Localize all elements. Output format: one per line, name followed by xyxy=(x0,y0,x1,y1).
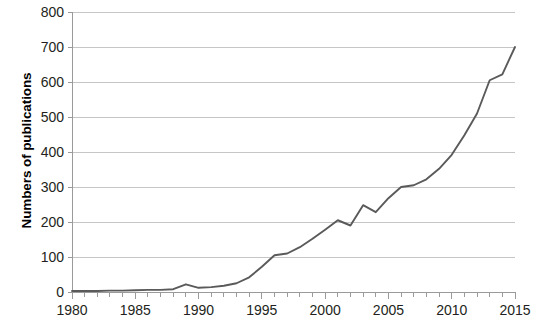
x-tick-label-2000: 2000 xyxy=(295,303,355,317)
x-tick-label-2015: 2015 xyxy=(485,303,535,317)
x-tick-label-1990: 1990 xyxy=(169,303,229,317)
x-tick-label-1995: 1995 xyxy=(232,303,292,317)
x-tick-label-1980: 1980 xyxy=(42,303,102,317)
x-axis-ticks xyxy=(72,292,515,299)
gridlines xyxy=(72,12,515,257)
x-tick-label-2010: 2010 xyxy=(422,303,482,317)
series-line-publications xyxy=(72,47,515,291)
x-tick-label-2005: 2005 xyxy=(358,303,418,317)
x-tick-label-1985: 1985 xyxy=(105,303,165,317)
y-axis-ticks xyxy=(68,12,72,292)
